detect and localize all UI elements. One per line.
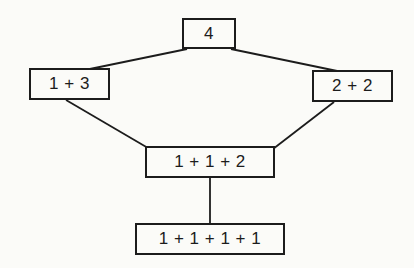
node-1-plus-1-plus-2-label: 1 + 1 + 2	[174, 152, 246, 172]
node-1-plus-1-plus-1-plus-1: 1 + 1 + 1 + 1	[135, 223, 285, 255]
edge-2-2-to-1-1-2	[273, 102, 334, 149]
node-4: 4	[182, 18, 236, 49]
edge-4-to-1-3	[85, 49, 187, 70]
edge-1-3-to-1-1-2	[66, 100, 148, 148]
node-2-plus-2: 2 + 2	[312, 70, 393, 102]
node-4-label: 4	[204, 24, 214, 44]
edge-4-to-2-2	[231, 49, 342, 72]
node-1-plus-3: 1 + 3	[29, 68, 110, 100]
partition-lattice-diagram: 4 1 + 3 2 + 2 1 + 1 + 2 1 + 1 + 1 + 1	[0, 0, 414, 268]
node-1-plus-1-plus-1-plus-1-label: 1 + 1 + 1 + 1	[159, 229, 261, 249]
node-1-plus-3-label: 1 + 3	[49, 74, 90, 94]
node-2-plus-2-label: 2 + 2	[332, 76, 373, 96]
node-1-plus-1-plus-2: 1 + 1 + 2	[145, 146, 275, 178]
